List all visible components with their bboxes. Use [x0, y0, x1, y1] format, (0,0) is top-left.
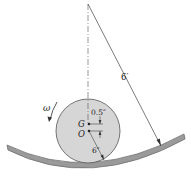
pendulum-disk-diagram: ω 6′ 0.5″ G O 6″	[0, 0, 191, 176]
label-O: O	[78, 129, 85, 139]
label-disk-radius: 6″	[92, 146, 100, 155]
label-offset: 0.5″	[91, 108, 106, 117]
omega-arrowhead	[48, 117, 53, 123]
label-omega: ω	[43, 103, 51, 113]
track-radius-arrowhead	[157, 138, 162, 146]
point-G	[88, 123, 91, 126]
label-track-radius: 6′	[121, 72, 128, 82]
label-G: G	[78, 119, 85, 129]
